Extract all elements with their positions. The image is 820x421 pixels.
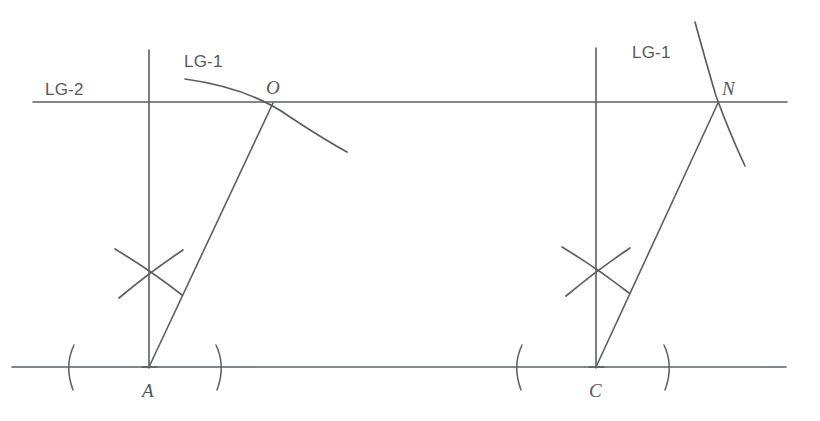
geometry-canvas: LG-2 LG-1 LG-1 O N A C	[0, 0, 820, 421]
label-lg2-left: LG-2	[45, 80, 84, 99]
geometry-diagram: LG-2 LG-1 LG-1 O N A C	[0, 0, 820, 421]
label-point-a: A	[140, 380, 154, 401]
label-point-o: O	[266, 77, 280, 98]
label-point-c: C	[589, 380, 602, 401]
label-lg1-left: LG-1	[184, 52, 223, 71]
transversal-a-to-o	[149, 103, 273, 367]
label-point-n: N	[721, 78, 736, 99]
arc-lg1-right	[695, 22, 745, 166]
label-lg1-right: LG-1	[632, 43, 671, 62]
transversal-c-to-n	[596, 103, 718, 367]
